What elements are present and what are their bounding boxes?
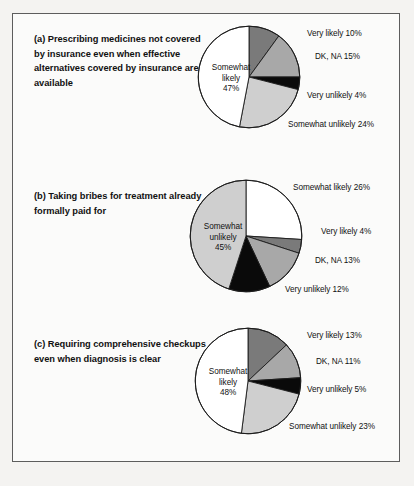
pie-c-label-dk-na: DK, NA 11% <box>316 357 360 368</box>
panel-b-caption: (b) Taking bribes for treatment already … <box>34 189 210 218</box>
pie-c-sl-line1: Somewhat <box>199 367 257 378</box>
pie-c-sl-line3: 48% <box>199 388 257 399</box>
pie-b-label-dk-na: DK, NA 13% <box>315 256 360 267</box>
pie-b-label-very-likely: Very likely 4% <box>321 227 371 238</box>
pie-b-label-very-unlikely: Very unlikely 12% <box>285 285 349 296</box>
pie-a-sl-line1: Somewhat <box>202 63 260 74</box>
pie-c-label-very-likely: Very likely 13% <box>307 331 362 342</box>
pie-b-su-line2: unlikely <box>194 233 252 244</box>
pie-c-label-very-unlikely: Very unlikely 5% <box>307 385 366 396</box>
pie-a-label-very-unlikely: Very unlikely 4% <box>307 91 366 102</box>
pie-a-label-dk-na: DK, NA 15% <box>315 52 360 63</box>
pie-a-label-somewhat-likely: Somewhat likely 47% <box>202 63 260 95</box>
panel-c: (c) Requiring comprehensive checkups eve… <box>13 319 399 463</box>
pie-c-label-somewhat-likely: Somewhat likely 48% <box>199 367 257 399</box>
pie-b-label-somewhat-likely: Somewhat likely 26% <box>293 183 370 194</box>
panel-a: (a) Prescribing medicines not covered by… <box>13 14 399 169</box>
pie-b-su-line1: Somewhat <box>194 222 252 233</box>
figure-frame: (a) Prescribing medicines not covered by… <box>12 13 400 462</box>
pie-a-sl-line2: likely <box>202 74 260 85</box>
pie-a-sl-line3: 47% <box>202 84 260 95</box>
pie-c-label-somewhat-unlikely: Somewhat unlikely 23% <box>289 422 375 433</box>
panel-c-caption: (c) Requiring comprehensive checkups eve… <box>34 337 210 366</box>
pie-b-su-line3: 45% <box>194 243 252 254</box>
pie-a-label-somewhat-unlikely: Somewhat unlikely 24% <box>288 120 374 131</box>
panel-b: (b) Taking bribes for treatment already … <box>13 169 399 319</box>
pie-b-label-somewhat-unlikely: Somewhat unlikely 45% <box>194 222 252 254</box>
pie-c-sl-line2: likely <box>199 378 257 389</box>
panel-a-caption: (a) Prescribing medicines not covered by… <box>34 32 210 90</box>
pie-a-label-very-likely: Very likely 10% <box>307 29 362 40</box>
